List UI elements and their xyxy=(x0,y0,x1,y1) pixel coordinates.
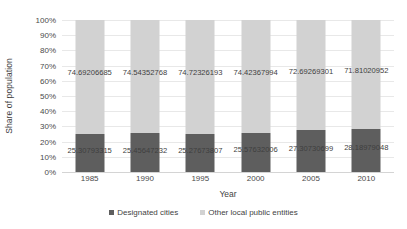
bar-segment-other-local-public-entities[interactable]: 72.69269301 xyxy=(296,20,325,130)
bar-value-label: 71.81020952 xyxy=(344,66,388,75)
y-axis-tick-label: 0% xyxy=(16,168,56,177)
y-axis-tick-label: 40% xyxy=(16,107,56,116)
bar-value-label: 74.42367994 xyxy=(233,68,277,77)
x-axis-tick-label: 1990 xyxy=(117,174,172,188)
bar-slot: 74.5435276825.45647232 xyxy=(117,20,172,172)
chart-legend: Designated citiesOther local public enti… xyxy=(0,208,407,217)
y-axis-tick-label: 70% xyxy=(16,61,56,70)
stacked-bar-chart: Share of population 0%10%20%30%40%50%60%… xyxy=(0,0,407,229)
y-axis-tick-labels: 0%10%20%30%40%50%60%70%80%90%100% xyxy=(16,20,60,172)
legend-item[interactable]: Other local public entities xyxy=(200,208,297,217)
x-axis-tick-label: 1995 xyxy=(173,174,228,188)
bar-group: 74.6920668525.3079331574.5435276825.4564… xyxy=(62,20,394,172)
y-axis-tick-label: 100% xyxy=(16,16,56,25)
bar-slot: 74.4236799425.57632006 xyxy=(228,20,283,172)
bar-segment-other-local-public-entities[interactable]: 74.72326193 xyxy=(186,20,215,134)
bar-segment-other-local-public-entities[interactable]: 74.54352768 xyxy=(130,20,159,133)
bar-value-label: 25.27673807 xyxy=(178,145,222,154)
bar-value-label: 74.72326193 xyxy=(178,68,222,77)
bar-slot: 74.6920668525.30793315 xyxy=(62,20,117,172)
legend-item-label: Designated cities xyxy=(117,208,178,217)
bar-value-label: 25.57632006 xyxy=(233,145,277,154)
bar-segment-designated-cities[interactable]: 28.18979048 xyxy=(352,129,381,172)
y-axis-tick-label: 80% xyxy=(16,46,56,55)
legend-item[interactable]: Designated cities xyxy=(109,208,178,217)
bar-segment-other-local-public-entities[interactable]: 74.42367994 xyxy=(241,20,270,133)
x-axis-tick-labels: 198519901995200020052010 xyxy=(62,174,394,188)
y-axis-tick-label: 90% xyxy=(16,31,56,40)
stacked-bar[interactable]: 72.6926930127.30730699 xyxy=(296,20,325,172)
bar-value-label: 72.69269301 xyxy=(289,66,333,75)
bar-segment-designated-cities[interactable]: 25.30793315 xyxy=(75,134,104,172)
stacked-bar[interactable]: 74.5435276825.45647232 xyxy=(130,20,159,172)
bar-value-label: 25.45647232 xyxy=(123,145,167,154)
plot-area: 74.6920668525.3079331574.5435276825.4564… xyxy=(62,20,394,172)
stacked-bar[interactable]: 71.8102095228.18979048 xyxy=(352,20,381,172)
y-axis-tick-label: 60% xyxy=(16,76,56,85)
stacked-bar[interactable]: 74.7232619325.27673807 xyxy=(186,20,215,172)
legend-swatch-icon xyxy=(109,210,114,215)
bar-segment-other-local-public-entities[interactable]: 71.81020952 xyxy=(352,20,381,129)
y-axis-tick-label: 10% xyxy=(16,152,56,161)
y-axis-title: Share of population xyxy=(2,20,16,172)
bar-value-label: 28.18979048 xyxy=(344,143,388,152)
y-axis-tick-label: 20% xyxy=(16,137,56,146)
x-axis-tick-label: 2000 xyxy=(228,174,283,188)
x-axis-tick-label: 2010 xyxy=(339,174,394,188)
legend-item-label: Other local public entities xyxy=(208,208,297,217)
bar-slot: 71.8102095228.18979048 xyxy=(339,20,394,172)
y-axis-tick-label: 50% xyxy=(16,92,56,101)
stacked-bar[interactable]: 74.4236799425.57632006 xyxy=(241,20,270,172)
bar-value-label: 27.30730699 xyxy=(289,143,333,152)
bar-segment-designated-cities[interactable]: 25.57632006 xyxy=(241,133,270,172)
bar-segment-designated-cities[interactable]: 27.30730699 xyxy=(296,130,325,172)
x-axis-tick-label: 2005 xyxy=(283,174,338,188)
bar-value-label: 74.54352768 xyxy=(123,68,167,77)
x-axis-title: Year xyxy=(62,189,394,199)
x-axis-tick-label: 1985 xyxy=(62,174,117,188)
bar-segment-designated-cities[interactable]: 25.45647232 xyxy=(130,133,159,172)
bar-value-label: 74.69206685 xyxy=(67,68,111,77)
bar-segment-designated-cities[interactable]: 25.27673807 xyxy=(186,134,215,172)
stacked-bar[interactable]: 74.6920668525.30793315 xyxy=(75,20,104,172)
bar-value-label: 25.30793315 xyxy=(67,145,111,154)
y-axis-tick-label: 30% xyxy=(16,122,56,131)
y-axis-title-label: Share of population xyxy=(4,58,14,134)
bar-slot: 74.7232619325.27673807 xyxy=(173,20,228,172)
bar-slot: 72.6926930127.30730699 xyxy=(283,20,338,172)
bar-segment-other-local-public-entities[interactable]: 74.69206685 xyxy=(75,20,104,134)
legend-swatch-icon xyxy=(200,210,205,215)
gridline xyxy=(62,172,394,173)
